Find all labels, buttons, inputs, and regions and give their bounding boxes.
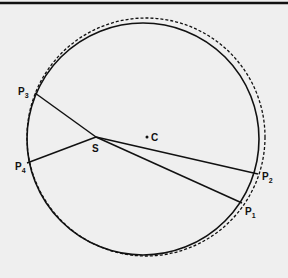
segment-s-p1 — [96, 137, 242, 203]
label-s: S — [92, 143, 99, 154]
segment-s-p3 — [35, 93, 96, 137]
label-p2: P2 — [262, 171, 273, 184]
label-c: C — [151, 132, 158, 143]
point-c-dot — [146, 136, 149, 139]
segment-s-p4 — [27, 137, 96, 163]
diagram-canvas: C S P1 P2 P3 P4 — [0, 0, 288, 278]
label-p1: P1 — [245, 206, 256, 219]
label-p4: P4 — [15, 161, 26, 174]
label-p3: P3 — [18, 86, 29, 99]
segment-s-p2 — [96, 137, 258, 174]
